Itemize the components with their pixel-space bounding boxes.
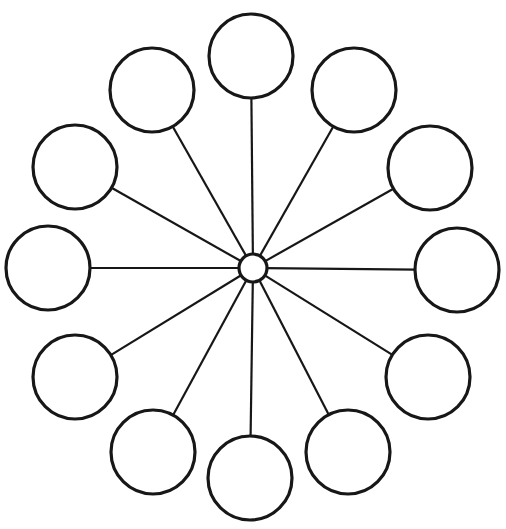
spoke-line-4 xyxy=(266,268,417,269)
radial-bubble-diagram xyxy=(0,0,506,529)
spoke-line-9 xyxy=(110,275,243,356)
spoke-line-3 xyxy=(264,188,395,262)
bubble-node-10[interactable] xyxy=(6,226,90,310)
bubble-node-12[interactable] xyxy=(110,48,194,132)
spoke-line-2 xyxy=(259,125,334,257)
bubble-node-8[interactable] xyxy=(111,410,195,494)
spoke-line-8 xyxy=(172,279,247,416)
bubble-node-7[interactable] xyxy=(208,436,292,520)
spoke-line-12 xyxy=(172,125,247,257)
bubble-node-6[interactable] xyxy=(306,410,390,494)
spoke-line-7 xyxy=(251,281,253,438)
bubble-node-11[interactable] xyxy=(33,125,117,209)
diagram-canvas xyxy=(0,0,506,529)
spoke-line-11 xyxy=(110,187,242,262)
spoke-line-6 xyxy=(259,279,330,416)
bubble-node-5[interactable] xyxy=(386,335,470,419)
spoke-line-5 xyxy=(264,275,394,356)
bubble-node-3[interactable] xyxy=(388,126,472,210)
bubble-node-4[interactable] xyxy=(415,228,499,312)
bubble-node-9[interactable] xyxy=(33,335,117,419)
hub-circle[interactable] xyxy=(239,254,267,282)
spoke-line-1 xyxy=(251,97,253,256)
bubble-node-1[interactable] xyxy=(209,14,293,98)
hub-group xyxy=(239,254,267,282)
bubble-node-2[interactable] xyxy=(312,48,396,132)
